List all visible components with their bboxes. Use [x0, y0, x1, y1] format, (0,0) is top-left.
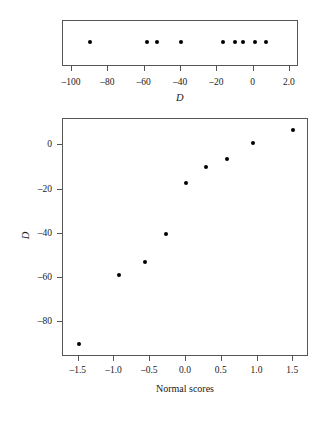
- dotplot-dot: [145, 40, 149, 44]
- scatter-point: [117, 273, 121, 277]
- dotplot-dot: [241, 40, 245, 44]
- scatter-x-tick-mark: [78, 356, 79, 361]
- scatter-x-tick-label: 1.5: [286, 365, 298, 375]
- scatter-point: [251, 141, 255, 145]
- scatter-plot-frame: [62, 118, 308, 356]
- dotplot-dot: [88, 40, 92, 44]
- scatter-point: [143, 260, 147, 264]
- scatter-point: [204, 165, 208, 169]
- dotplot-dot: [179, 40, 183, 44]
- scatter-point: [164, 232, 168, 236]
- scatter-x-axis-title: Normal scores: [156, 383, 214, 394]
- dotplot-tick-label: –20: [209, 77, 223, 87]
- scatter-y-tick-label: –40: [28, 228, 52, 238]
- scatter-point: [291, 128, 295, 132]
- dotplot-dot: [155, 40, 159, 44]
- scatter-x-tick-mark: [113, 356, 114, 361]
- scatter-y-tick-label: –60: [28, 272, 52, 282]
- dotplot-tick-mark: [253, 66, 254, 71]
- dotplot-tick-label: –40: [173, 77, 187, 87]
- scatter-y-axis-title: D: [20, 221, 31, 251]
- scatter-x-tick-label: –1.5: [69, 365, 86, 375]
- dotplot-tick-mark: [107, 66, 108, 71]
- dotplot-tick-mark: [216, 66, 217, 71]
- scatter-y-tick-label: –80: [28, 316, 52, 326]
- dotplot-dot: [264, 40, 268, 44]
- scatter-x-tick-mark: [221, 356, 222, 361]
- scatter-x-tick-mark: [292, 356, 293, 361]
- dotplot-tick-label: 2.0: [283, 77, 295, 87]
- scatter-point: [225, 157, 229, 161]
- dotplot-tick-mark: [289, 66, 290, 71]
- scatter-x-tick-mark: [149, 356, 150, 361]
- dotplot-tick-mark: [180, 66, 181, 71]
- dotplot-dot: [221, 40, 225, 44]
- scatter-y-tick-label: –20: [28, 184, 52, 194]
- scatter-y-tick-label: 0: [28, 139, 52, 149]
- scatter-point: [184, 181, 188, 185]
- scatter-x-tick-label: 0.0: [179, 365, 191, 375]
- scatter-x-tick-mark: [257, 356, 258, 361]
- scatter-point: [77, 342, 81, 346]
- dotplot-tick-mark: [71, 66, 72, 71]
- dotplot-tick-label: –60: [137, 77, 151, 87]
- dotplot-tick-mark: [144, 66, 145, 71]
- dotplot-tick-label: 0: [250, 77, 255, 87]
- scatter-x-tick-mark: [185, 356, 186, 361]
- scatter-x-tick-label: 1.0: [251, 365, 263, 375]
- scatter-x-tick-label: –0.5: [141, 365, 158, 375]
- scatter-x-tick-label: 0.5: [215, 365, 227, 375]
- dotplot-tick-label: –100: [62, 77, 81, 87]
- dotplot-dot: [253, 40, 257, 44]
- dotplot-frame: [62, 20, 298, 66]
- statistics-figure: –100–80–60–40–2002.0 D –1.5–1.0–0.50.00.…: [0, 0, 331, 421]
- dotplot-tick-label: –80: [100, 77, 114, 87]
- dotplot-x-axis-title: D: [176, 92, 184, 103]
- scatter-x-tick-label: –1.0: [105, 365, 122, 375]
- dotplot-dot: [233, 40, 237, 44]
